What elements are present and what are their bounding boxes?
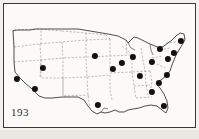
- us-map-graphic: [0, 0, 199, 139]
- map-state-borders: [14, 29, 176, 108]
- figure-container: 193: [0, 0, 199, 139]
- page-edge-strip: [0, 130, 199, 139]
- plate-number: 193: [11, 107, 29, 118]
